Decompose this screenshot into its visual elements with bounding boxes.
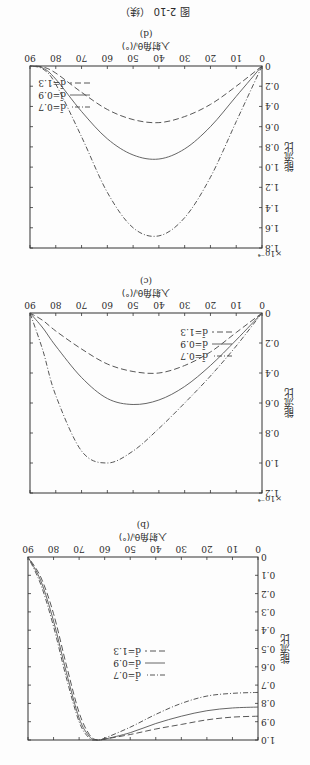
curve-0.7 — [30, 313, 262, 463]
y-tick-label: 1.0 — [265, 162, 280, 172]
figure-page: 01020304050607080900.10.20.30.40.50.60.7… — [0, 0, 310, 765]
chart-panel-c: 01020304050607080900.20.40.60.81.01.20×1… — [24, 276, 282, 503]
x-tick-label: 20 — [204, 53, 216, 63]
x-tick-label: 10 — [230, 53, 242, 63]
x-axis-label: 入射角θᵢ/(°) — [122, 41, 171, 52]
x-tick-label: 70 — [73, 544, 85, 554]
x-tick-label: 60 — [101, 300, 113, 310]
x-tick-label: 80 — [50, 53, 62, 63]
curve-1.3 — [30, 313, 262, 373]
y-tick-label: 0.6 — [265, 398, 280, 408]
x-tick-label: 70 — [76, 300, 88, 310]
y-tick-label: 0.8 — [265, 428, 280, 438]
chart-panel-b: 01020304050607080900.10.20.30.40.50.60.7… — [22, 520, 275, 745]
legend: d̄=0.7d̄=0.9d̄=1.3 — [113, 646, 165, 681]
y-tick-label: 1.0 — [265, 458, 280, 468]
legend: d̄=0.7d̄=0.9d̄=1.3 — [38, 78, 90, 113]
y-tick-label: 0.2 — [261, 589, 275, 599]
y-tick-label: 0.6 — [261, 662, 276, 672]
plot-frame — [30, 313, 262, 493]
y-tick-label: 0.4 — [261, 625, 276, 635]
x-axis-label: 入射角θᵢ/(°) — [122, 288, 171, 299]
y-tick-label: 0.3 — [261, 607, 276, 617]
y-tick-label: 0.4 — [265, 368, 280, 378]
x-tick-label: 80 — [48, 544, 60, 554]
legend: d̄=0.7d̄=0.9d̄=1.3 — [180, 327, 232, 362]
x-tick-label: 30 — [179, 300, 191, 310]
legend-label: d̄=1.3 — [180, 327, 208, 338]
legend-label: d̄=0.7 — [38, 102, 66, 113]
x-tick-label: 90 — [22, 544, 34, 554]
x-tick-label: 0 — [255, 544, 261, 554]
y-tick-label: 0.1 — [261, 570, 275, 580]
y-tick-label: 0 — [265, 61, 271, 71]
figure-svg: 01020304050607080900.10.20.30.40.50.60.7… — [0, 0, 310, 765]
y-axis-label: 能流比 — [281, 634, 292, 665]
legend-label: d̄=1.3 — [113, 646, 141, 657]
x-tick-label: 10 — [230, 300, 242, 310]
legend-label: d̄=1.3 — [38, 78, 66, 89]
legend-label: d̄=0.9 — [180, 339, 208, 350]
x-tick-label: 10 — [226, 544, 238, 554]
x-tick-label: 90 — [24, 53, 36, 63]
x-tick-label: 90 — [24, 300, 36, 310]
y-tick-label: 0.7 — [261, 680, 276, 690]
chart-panel-d: 01020304050607080900.20.40.60.81.01.21.4… — [24, 29, 282, 258]
legend-label: d̄=0.7 — [180, 351, 208, 362]
x-tick-label: 0 — [259, 300, 265, 310]
x-tick-label: 50 — [127, 53, 139, 63]
y-axis-label: 能流比 — [285, 388, 296, 419]
x-tick-label: 30 — [175, 544, 187, 554]
x-tick-label: 60 — [99, 544, 111, 554]
legend-label: d̄=0.7 — [113, 670, 141, 681]
x-tick-label: 80 — [50, 300, 62, 310]
y-tick-label: 0 — [265, 308, 271, 318]
x-tick-label: 50 — [127, 300, 139, 310]
curve-0.9 — [30, 313, 262, 405]
y-tick-label: 1.2 — [265, 182, 279, 192]
x-tick-label: 20 — [204, 300, 216, 310]
y-tick-label: 0.5 — [261, 644, 276, 654]
y-scale-note: ×10⁻⁴ — [258, 494, 282, 503]
x-tick-label: 30 — [179, 53, 191, 63]
x-axis-label: 入射角θᵢ/(°) — [119, 532, 168, 543]
x-tick-label: 20 — [201, 544, 213, 554]
figure-caption: 图 2-10 （续） — [120, 6, 189, 18]
legend-label: d̄=0.9 — [38, 90, 66, 101]
curve-1.3 — [28, 557, 258, 740]
y-tick-label: 0.8 — [261, 698, 276, 708]
x-tick-label: 40 — [153, 300, 165, 310]
panel-label: (b) — [137, 520, 150, 530]
y-tick-label: 0.4 — [265, 101, 280, 111]
y-scale-note: ×10⁻⁴ — [258, 249, 282, 258]
panel-label: (d) — [140, 29, 153, 39]
y-tick-label: 0 — [261, 552, 267, 562]
y-tick-label: 1.4 — [265, 203, 280, 213]
y-tick-label: 0.8 — [265, 142, 280, 152]
x-tick-label: 60 — [101, 53, 113, 63]
x-tick-label: 0 — [259, 53, 265, 63]
y-tick-label: 0.2 — [265, 338, 279, 348]
y-tick-label: 1.6 — [265, 223, 280, 233]
x-tick-label: 40 — [153, 53, 165, 63]
y-tick-label: 0.6 — [265, 122, 280, 132]
x-tick-label: 50 — [124, 544, 136, 554]
x-tick-label: 40 — [150, 544, 162, 554]
legend-label: d̄=0.9 — [113, 658, 141, 669]
panel-label: (c) — [140, 276, 152, 286]
y-tick-label: 0.2 — [265, 81, 279, 91]
y-tick-label: 0.9 — [261, 717, 276, 727]
y-axis-label: 能流比 — [285, 142, 296, 173]
y-tick-label: 1.0 — [261, 735, 276, 745]
x-tick-label: 70 — [76, 53, 88, 63]
